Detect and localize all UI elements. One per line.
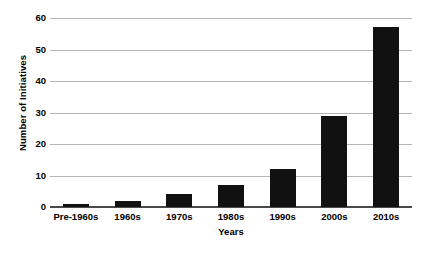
- bar-slot: [257, 18, 309, 207]
- x-axis-tick-labels: Pre-1960s1960s1970s1980s1990s2000s2010s: [50, 210, 412, 224]
- bar[interactable]: [63, 204, 89, 207]
- y-tick-label-40: 40: [24, 76, 46, 86]
- bar-slot: [205, 18, 257, 207]
- y-tick-label-10: 10: [24, 171, 46, 181]
- x-tick-label: 2000s: [309, 210, 361, 223]
- y-tick-label-20: 20: [24, 139, 46, 149]
- bar[interactable]: [373, 27, 399, 207]
- x-tick-label: 1980s: [205, 210, 257, 223]
- bar-slot: [153, 18, 205, 207]
- bar-slot: [102, 18, 154, 207]
- bar[interactable]: [270, 169, 296, 207]
- y-tick-label-0: 0: [24, 202, 46, 212]
- bar-slot: [309, 18, 361, 207]
- bar-slot: [360, 18, 412, 207]
- bar[interactable]: [218, 185, 244, 207]
- y-axis-tick-labels: 0102030405060: [24, 0, 46, 260]
- x-tick-label: 1990s: [257, 210, 309, 223]
- bar-chart-figure: Number of Initiatives 0102030405060 Pre-…: [0, 0, 430, 260]
- x-axis-title: Years: [50, 226, 412, 238]
- y-tick-label-30: 30: [24, 108, 46, 118]
- x-tick-label: 1960s: [102, 210, 154, 223]
- bar[interactable]: [321, 116, 347, 207]
- x-tick-label: 2010s: [360, 210, 412, 223]
- x-tick-label: 1970s: [153, 210, 205, 223]
- x-tick-label: Pre-1960s: [50, 210, 102, 223]
- bar[interactable]: [115, 201, 141, 207]
- bar[interactable]: [166, 194, 192, 207]
- bar-slot: [50, 18, 102, 207]
- y-tick-label-50: 50: [24, 45, 46, 55]
- bars-layer: [50, 18, 412, 207]
- y-tick-label-60: 60: [24, 13, 46, 23]
